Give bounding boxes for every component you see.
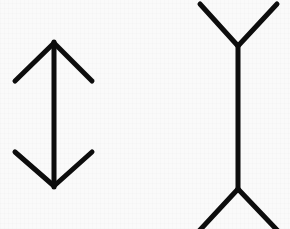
arrow-in-figure [15, 42, 92, 187]
right-figure-bottom-fin-left-arm [199, 189, 238, 229]
right-figure-top-fin [200, 4, 277, 46]
arrow-out-figure [199, 4, 278, 229]
left-figure-bottom-arrowhead-left-arm [15, 152, 54, 186]
right-figure-top-fin-right-arm [238, 4, 277, 46]
right-figure-bottom-fin [199, 189, 278, 229]
right-figure-bottom-fin-right-arm [238, 189, 278, 229]
left-figure-bottom-arrowhead-right-arm [54, 152, 92, 186]
right-figure-top-fin-left-arm [200, 4, 238, 46]
left-figure-top-arrowhead-left-arm [15, 43, 54, 81]
left-figure-top-arrowhead-right-arm [54, 43, 92, 81]
illusion-canvas [0, 0, 290, 229]
muller-lyer-figure-group [0, 0, 290, 229]
